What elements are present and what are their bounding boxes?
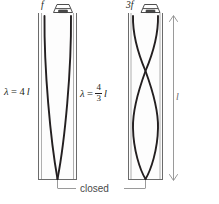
wavelength-equation-third-harmonic: λ = 4 3 l	[80, 83, 107, 103]
pipe-length-label: l	[176, 92, 179, 102]
fraction-numerator: 4	[95, 83, 102, 93]
lambda-symbol-third-harmonic: λ	[80, 88, 85, 99]
frequency-label-fundamental: f	[41, 1, 44, 11]
wavelength-coefficient-fundamental: 4	[19, 86, 24, 97]
pipe-third-harmonic	[128, 13, 163, 180]
speaker-base-right	[146, 10, 155, 13]
equals-sign-third-harmonic: =	[87, 88, 93, 99]
closed-end-label: closed	[80, 184, 109, 194]
diagram-canvas	[0, 0, 219, 204]
length-variable-fundamental: l	[27, 86, 30, 97]
length-variable-third-harmonic: l	[104, 88, 107, 99]
equals-sign-fundamental: =	[11, 86, 17, 97]
frequency-label-third-harmonic: 3f	[126, 1, 133, 11]
speaker-base-left	[59, 10, 68, 13]
wavelength-equation-fundamental: λ = 4 l	[4, 86, 30, 97]
pipe-third-harmonic-body	[128, 13, 163, 180]
lambda-symbol-fundamental: λ	[4, 86, 9, 97]
speaker-icon-fundamental	[54, 5, 73, 13]
wavelength-fraction-third-harmonic: 4 3	[95, 83, 102, 103]
standing-wave-diagram: f 3f λ = 4 l λ = 4 3 l closed l	[0, 0, 219, 204]
speaker-icon-third-harmonic	[141, 5, 160, 13]
pipe-fundamental	[38, 13, 77, 180]
fraction-denominator: 3	[95, 93, 102, 104]
